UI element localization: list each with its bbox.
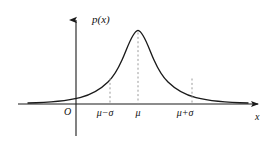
density-curve [28,30,248,103]
y-axis-label: p(x) [92,14,110,25]
tick-label-mu-plus-sigma: μ+σ [177,108,194,118]
figure-canvas [0,0,280,143]
tick-label-mu: μ [135,108,140,118]
x-axis-label: x [255,112,259,122]
normal-distribution-figure: p(x) x O μ−σ μ μ+σ [0,0,280,143]
tick-label-mu-minus-sigma: μ−σ [97,108,114,118]
origin-label: O [64,107,71,117]
